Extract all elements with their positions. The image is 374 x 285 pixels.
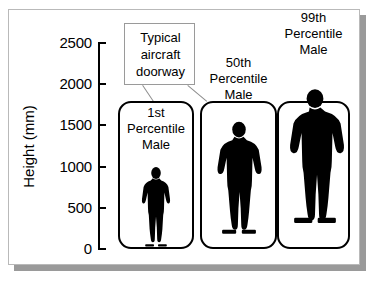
y-axis-label-2000: 2000: [46, 76, 92, 91]
y-axis-label-1000: 1000: [46, 159, 92, 174]
y-axis-tick-1000: [98, 166, 106, 168]
figure-label-3: 99th Percentile Male: [272, 10, 355, 58]
figure-screenshot: 2500 2000 1500 1000 500 0 Height (mm) Ty…: [0, 0, 374, 285]
y-axis-spine: [98, 42, 100, 249]
y-axis-tick-0: [98, 248, 106, 250]
y-axis-label-2500: 2500: [46, 35, 92, 50]
y-axis-label-500: 500: [46, 200, 92, 215]
y-axis-tick-1500: [98, 124, 106, 126]
y-axis-label-0: 0: [46, 241, 92, 256]
chart-plot-area: 2500 2000 1500 1000 500 0 Height (mm) Ty…: [0, 0, 374, 285]
y-axis-tick-2500: [98, 42, 106, 44]
silhouette-1st-percentile-male: [134, 167, 178, 247]
silhouette-99th-percentile-male: [278, 66, 352, 247]
figure-label-1: 1st Percentile Male: [118, 105, 194, 153]
y-axis-tick-2000: [98, 83, 106, 85]
figure-label-2: 50th Percentile Male: [198, 55, 279, 103]
silhouette-50th-percentile-male: [208, 109, 270, 247]
typical-aircraft-doorway-callout-label: Typical aircraft doorway: [125, 29, 196, 80]
typical-aircraft-doorway-callout: Typical aircraft doorway: [124, 23, 195, 85]
y-axis-tick-500: [98, 207, 106, 209]
y-axis-label-1500: 1500: [46, 117, 92, 132]
y-axis-title: Height (mm): [20, 87, 37, 207]
